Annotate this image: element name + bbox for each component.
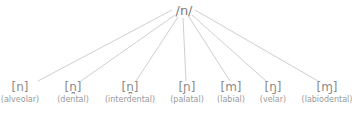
allophone-labiodental: [ɱ] (labiodental) — [292, 80, 360, 106]
connector-velar — [192, 15, 266, 81]
connector-labiodental — [195, 10, 318, 81]
connector-dental — [81, 15, 175, 81]
connector-interdental — [136, 17, 178, 81]
connector-palatal — [183, 18, 186, 81]
allophone-label: (labiodental) — [292, 94, 360, 106]
allophone-symbol: [ɱ] — [292, 80, 360, 94]
phoneme-root: /n/ — [172, 3, 196, 18]
connector-alveolar — [38, 10, 172, 81]
